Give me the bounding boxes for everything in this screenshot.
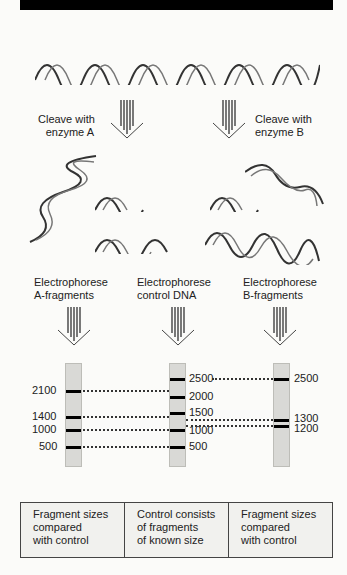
size-label: 1500	[189, 407, 213, 418]
band-1400	[66, 416, 81, 419]
comparison-line	[83, 390, 169, 392]
electrophorese-control-label: Electrophorese control DNA	[137, 276, 211, 302]
band-1000	[66, 429, 81, 432]
band-2500	[274, 378, 289, 381]
down-arrow-icon	[161, 307, 195, 347]
band-1200	[274, 425, 289, 428]
band-1500	[170, 412, 185, 415]
size-label: 2100	[32, 385, 56, 396]
gel-lane-b	[273, 363, 290, 467]
size-label: 1400	[32, 411, 56, 422]
down-arrow-icon	[212, 100, 246, 140]
comparison-line	[83, 429, 169, 431]
dna-fragment-a3	[95, 232, 170, 254]
size-label: 1000	[32, 424, 56, 435]
header-bar	[20, 0, 333, 10]
size-label: 500	[189, 441, 207, 452]
band-1000	[170, 429, 185, 432]
comparison-line	[212, 378, 273, 380]
size-label: 500	[39, 441, 57, 452]
dna-fragment-a2	[95, 190, 145, 212]
comparison-line	[186, 419, 273, 421]
size-label: 2500	[294, 373, 318, 384]
down-arrow-icon	[57, 307, 91, 347]
dna-fragment-b3	[205, 225, 320, 265]
caption-table: Fragment sizes compared with control Con…	[20, 502, 333, 558]
size-label: 2000	[189, 391, 213, 402]
caption-control: Control consists of fragments of known s…	[124, 503, 228, 557]
electrophorese-a-label: Electrophorese A-fragments	[34, 276, 108, 302]
dna-helix-full	[35, 55, 320, 85]
down-arrow-icon	[110, 100, 144, 140]
band-500	[66, 446, 81, 449]
band-500	[170, 446, 185, 449]
dna-fragment-b2	[210, 190, 260, 212]
cleave-enzyme-a-label: Cleave with enzyme A	[38, 113, 94, 139]
gel-lane-a	[65, 363, 82, 467]
cleave-enzyme-b-label: Cleave with enzyme B	[255, 113, 312, 139]
band-2100	[66, 390, 81, 393]
size-label: 1200	[294, 423, 318, 434]
comparison-line	[83, 446, 169, 448]
band-2000	[170, 396, 185, 399]
comparison-line	[83, 416, 169, 418]
band-2500	[170, 378, 185, 381]
gel-lane-control	[169, 363, 186, 467]
down-arrow-icon	[263, 307, 297, 347]
band-1300	[274, 419, 289, 422]
caption-b: Fragment sizes compared with control	[228, 503, 332, 557]
comparison-line	[186, 425, 273, 427]
caption-a: Fragment sizes compared with control	[21, 503, 124, 557]
dna-fragment-a1	[28, 152, 98, 244]
electrophorese-b-label: Electrophorese B-fragments	[243, 276, 317, 302]
size-label: 2500	[189, 373, 213, 384]
